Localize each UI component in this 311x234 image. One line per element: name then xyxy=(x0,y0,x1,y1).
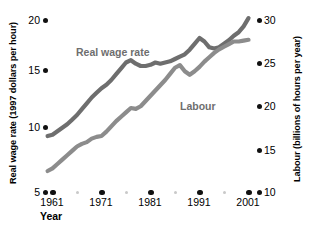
series-line-real-wage-rate xyxy=(48,18,249,136)
plot-area xyxy=(0,0,311,234)
series-line-labour xyxy=(48,40,249,171)
chart-container: Real wage rate (1997 dollars per hour) L… xyxy=(0,0,311,234)
